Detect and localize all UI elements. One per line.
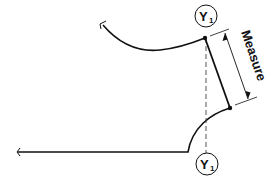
top-marker-subscript: 1 [209, 16, 214, 25]
extension-line-bottom [235, 97, 257, 105]
lower-curve [18, 108, 230, 152]
bottom-marker-label: Y [200, 157, 209, 172]
top-point [203, 36, 207, 40]
bottom-marker: Y 1 [196, 153, 218, 175]
measured-segment [205, 38, 230, 108]
dimension-label: Measure [238, 28, 269, 83]
top-marker-label: Y [199, 9, 208, 24]
measurement-diagram: Measure Y 1 Y 1 [0, 0, 273, 186]
upper-curve [103, 25, 205, 50]
bottom-point [228, 106, 232, 110]
top-marker: Y 1 [195, 5, 217, 27]
bottom-marker-subscript: 1 [210, 164, 215, 173]
